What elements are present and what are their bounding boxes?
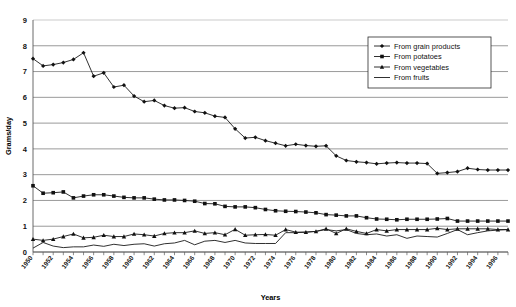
series-0-point-44 <box>476 167 480 171</box>
series-0-point-13 <box>162 103 166 107</box>
series-0-point-43 <box>465 166 469 170</box>
series-1-point-27 <box>304 210 308 214</box>
series-2-point-4 <box>71 232 75 236</box>
series-1-point-30 <box>334 213 338 217</box>
legend-label-0: From grain products <box>394 42 460 51</box>
x-tick-label-1984: 1984 <box>363 254 378 270</box>
y-tick-label-1: 1 <box>23 222 27 231</box>
x-tick-label-1960: 1960 <box>121 254 136 270</box>
x-tick-label-1968: 1968 <box>201 254 216 270</box>
series-1-point-40 <box>435 217 439 221</box>
series-0-point-33 <box>364 160 368 164</box>
y-tick-label-3: 3 <box>23 170 27 179</box>
series-1-point-1 <box>41 191 45 195</box>
series-1-point-37 <box>405 217 409 221</box>
x-tick-label-1992: 1992 <box>444 254 459 270</box>
x-axis-title: Years <box>261 293 281 302</box>
series-1-point-47 <box>506 219 510 223</box>
series-0-point-37 <box>405 161 409 165</box>
series-1-point-3 <box>62 190 66 194</box>
series-2-point-25 <box>283 227 287 231</box>
x-tick-label-1950: 1950 <box>20 254 35 270</box>
series-1-point-7 <box>102 193 106 197</box>
series-0-point-17 <box>203 111 207 115</box>
series-1-point-26 <box>294 210 298 214</box>
series-1-point-2 <box>51 191 55 195</box>
series-0-point-18 <box>213 114 217 118</box>
x-tick-label-1980: 1980 <box>323 254 338 270</box>
series-1-point-8 <box>112 194 116 198</box>
series-0-point-32 <box>354 160 358 164</box>
legend-marker-1 <box>380 55 384 59</box>
series-0-point-47 <box>506 168 510 172</box>
series-0-point-31 <box>344 158 348 162</box>
x-tick-label-1964: 1964 <box>161 254 176 270</box>
x-tick-label-1962: 1962 <box>141 254 156 270</box>
series-0-point-16 <box>193 109 197 113</box>
y-tick-label-2: 2 <box>23 196 27 205</box>
series-0-point-14 <box>172 106 176 110</box>
series-0-point-12 <box>152 98 156 102</box>
series-0-point-3 <box>61 60 65 64</box>
series-0-point-6 <box>92 74 96 78</box>
series-1-point-31 <box>344 214 348 218</box>
series-0-point-22 <box>253 135 257 139</box>
series-0-point-41 <box>445 171 449 175</box>
legend-label-3: From fruits <box>394 73 430 82</box>
x-tick-label-1986: 1986 <box>383 254 398 270</box>
legend-label-2: From vegetables <box>394 63 449 72</box>
series-0-point-15 <box>182 106 186 110</box>
x-tick-label-1978: 1978 <box>302 254 317 270</box>
series-0-point-45 <box>486 168 490 172</box>
series-1-point-46 <box>496 219 500 223</box>
series-1-point-44 <box>476 219 480 223</box>
x-tick-label-1972: 1972 <box>242 254 257 270</box>
series-0-point-24 <box>273 141 277 145</box>
series-1-point-19 <box>223 205 227 209</box>
series-0-point-42 <box>455 169 459 173</box>
series-1-point-36 <box>395 218 399 222</box>
x-tick-label-1956: 1956 <box>80 254 95 270</box>
series-1-point-35 <box>385 217 389 221</box>
series-0-point-26 <box>294 142 298 146</box>
series-1-point-33 <box>365 216 369 220</box>
series-1-point-45 <box>486 219 490 223</box>
series-0-point-36 <box>395 160 399 164</box>
x-tick-label-1954: 1954 <box>60 254 75 270</box>
series-1-point-22 <box>254 206 258 210</box>
series-1-point-16 <box>193 199 197 203</box>
chart-container: 0123456789195019521954195619581960196219… <box>0 0 516 307</box>
series-1-point-23 <box>264 208 268 212</box>
series-1-point-20 <box>233 205 237 209</box>
series-0-point-46 <box>496 168 500 172</box>
series-1-point-6 <box>92 193 96 197</box>
series-0-point-38 <box>415 161 419 165</box>
x-tick-label-1952: 1952 <box>40 254 55 270</box>
series-0-point-35 <box>385 161 389 165</box>
series-0-point-23 <box>263 139 267 143</box>
series-1-point-11 <box>142 196 146 200</box>
series-1-point-39 <box>425 217 429 221</box>
series-1-point-29 <box>324 213 328 217</box>
series-1-point-18 <box>213 202 217 206</box>
series-1-point-12 <box>152 197 156 201</box>
series-1-point-38 <box>415 217 419 221</box>
series-0-point-28 <box>314 144 318 148</box>
line-chart: 0123456789195019521954195619581960196219… <box>0 0 516 307</box>
series-1-point-4 <box>72 196 76 200</box>
series-1-point-41 <box>446 217 450 221</box>
series-1-point-32 <box>355 214 359 218</box>
x-tick-label-1958: 1958 <box>100 254 115 270</box>
series-0-point-25 <box>284 144 288 148</box>
series-1-point-34 <box>375 217 379 221</box>
series-1-point-14 <box>173 198 177 202</box>
y-tick-label-6: 6 <box>23 93 27 102</box>
y-tick-label-5: 5 <box>23 119 27 128</box>
x-tick-label-1988: 1988 <box>404 254 419 270</box>
x-tick-label-1982: 1982 <box>343 254 358 270</box>
legend-label-1: From potatoes <box>394 52 442 61</box>
series-1-point-15 <box>183 199 187 203</box>
y-axis-title: Grams/day <box>4 116 13 155</box>
x-tick-label-1976: 1976 <box>282 254 297 270</box>
x-tick-label-1994: 1994 <box>464 254 479 270</box>
